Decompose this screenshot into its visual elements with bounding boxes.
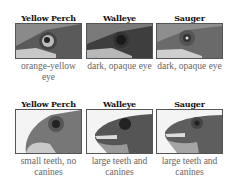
walleye-eye-image (86, 23, 153, 59)
species-title: Sauger (156, 14, 223, 23)
yellow-perch-eye-panel: Yellow Perch orange-yellow eye (15, 14, 82, 82)
yellow-perch-eye-image (15, 23, 82, 59)
walleye-mouth-image (86, 109, 153, 154)
caption: large teeth and canines (86, 156, 153, 177)
species-title: Sauger (156, 100, 223, 109)
species-title: Yellow Perch (15, 100, 82, 109)
caption: orange-yellow eye (15, 61, 82, 82)
yellow-perch-teeth-panel: Yellow Perch small teeth, no canines (15, 100, 82, 177)
caption: large teeth and canines (156, 156, 223, 177)
species-title: Walleye (86, 100, 153, 109)
yellow-perch-mouth-image (15, 109, 82, 154)
sauger-mouth-image (156, 109, 223, 154)
caption: small teeth, no canines (15, 156, 82, 177)
walleye-eye-panel: Walleye dark, opaque eye (86, 14, 153, 72)
sauger-eye-image (156, 23, 223, 59)
caption: dark, opaque eye (156, 61, 223, 72)
caption: dark, opaque eye (86, 61, 153, 72)
species-title: Yellow Perch (15, 14, 82, 23)
sauger-teeth-panel: Sauger large teeth and canines (156, 100, 223, 177)
sauger-eye-panel: Sauger dark, opaque eye (156, 14, 223, 72)
walleye-teeth-panel: Walleye large teeth and canines (86, 100, 153, 177)
species-title: Walleye (86, 14, 153, 23)
